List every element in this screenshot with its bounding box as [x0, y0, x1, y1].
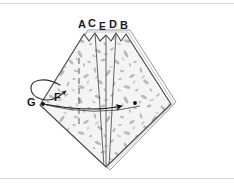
vertex-label-c: C [88, 18, 96, 29]
vertex-label-d: D [109, 19, 117, 30]
diagram-canvas [0, 0, 234, 185]
vertex-label-e: E [99, 22, 106, 32]
point-dot-end [133, 101, 137, 105]
vertex-label-f: F [54, 92, 61, 103]
vertex-label-b: B [120, 20, 128, 31]
point-dot-g [41, 102, 45, 106]
vertex-label-g: G [27, 97, 36, 108]
figure-root: A C E D B G F [0, 0, 234, 185]
vertex-label-a: A [78, 19, 86, 30]
